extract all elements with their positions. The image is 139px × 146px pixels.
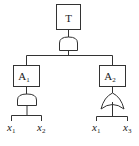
basic-event-x3: x3 [122,121,132,135]
fault-tree-diagram: T A1 A2 x1 x2 x1 x3 [0,0,139,146]
a1-and-gate-icon [18,94,37,106]
basic-event-x1-right: x1 [91,121,101,135]
top-event-label: T [65,12,72,24]
event-a2-label: A2 [104,70,116,84]
basic-event-x2: x2 [36,121,46,135]
top-and-gate-icon [60,37,78,51]
event-a1-label: A1 [18,70,30,84]
basic-event-x1-left: x1 [6,121,16,135]
